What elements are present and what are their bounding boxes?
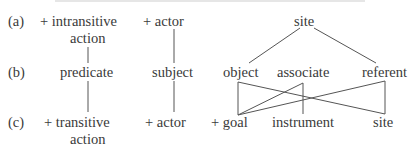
a-action: action [70,31,105,46]
c-action: action [70,132,105,147]
row-label-a: (a) [8,14,24,29]
a-intransitive: + intransitive [40,14,117,29]
line-associate-goal [238,83,303,115]
b-referent: referent [362,65,407,80]
line-referent-goal [238,81,385,115]
line-site-object [249,28,300,63]
c-actor: + actor [145,115,186,130]
b-predicate: predicate [60,65,113,80]
b-object: object [223,65,258,80]
row-label-c: (c) [8,115,24,130]
a-actor: + actor [143,14,184,29]
c-transitive: + transitive [44,115,110,130]
b-subject: subject [152,65,193,80]
c-site: site [373,115,393,130]
c-instrument: instrument [272,115,334,130]
c-goal: + goal [211,115,248,130]
row-label-b: (b) [8,65,25,80]
a-site: site [294,14,314,29]
line-site-referent [314,28,376,63]
b-associate: associate [277,65,329,80]
